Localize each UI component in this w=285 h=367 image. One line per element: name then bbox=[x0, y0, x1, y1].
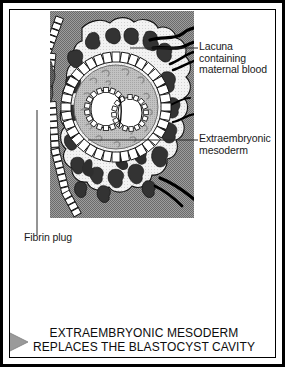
label-lacuna-containing-maternal-blood: Lacuna containing maternal blood bbox=[199, 41, 267, 76]
figure-caption: EXTRAEMBRYONIC MESODERM REPLACES THE BLA… bbox=[18, 327, 270, 354]
diagram-panel bbox=[22, 11, 208, 218]
figure-container: Lacuna containing maternal blood Extraem… bbox=[0, 0, 285, 367]
label-extraembryonic-mesoderm: Extraembryonic mesoderm bbox=[199, 133, 271, 156]
label-fibrin-plug: Fibrin plug bbox=[24, 232, 72, 244]
